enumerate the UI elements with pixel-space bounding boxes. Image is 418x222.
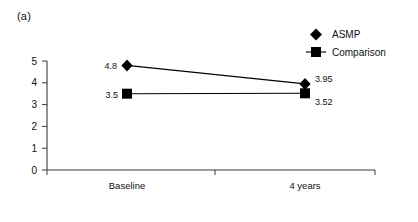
legend-label-comparison: Comparison [332, 47, 386, 58]
data-label-comparison-baseline: 3.5 [105, 90, 118, 100]
series-line-asmp [127, 65, 305, 84]
diamond-marker-icon [310, 29, 322, 41]
chart-figure: (a) 5 4 3 2 1 0 Baseline 4 years [0, 0, 418, 222]
square-marker-icon [122, 89, 132, 99]
legend-label-asmp: ASMP [332, 29, 361, 40]
legend-item-asmp[interactable]: ASMP [310, 29, 361, 41]
data-label-asmp-baseline: 4.8 [104, 61, 117, 71]
x-category-label-baseline: Baseline [109, 180, 145, 191]
y-tick-label-1: 1 [31, 143, 37, 154]
legend-item-comparison[interactable]: Comparison [306, 47, 386, 58]
y-tick-label-2: 2 [31, 121, 37, 132]
data-label-asmp-4-years: 3.95 [315, 74, 333, 84]
y-tick-label-5: 5 [31, 56, 37, 67]
chart-legend: ASMP Comparison [306, 29, 386, 59]
x-axis-ticks [47, 170, 375, 175]
data-label-comparison-4-years: 3.52 [315, 97, 333, 107]
y-tick-label-0: 0 [31, 165, 37, 176]
y-axis-ticks [42, 61, 47, 170]
x-category-label-4-years: 4 years [289, 180, 320, 191]
diamond-marker-icon [121, 59, 132, 71]
line-chart-canvas: 5 4 3 2 1 0 Baseline 4 years 4.8 3.95 3.… [0, 0, 418, 222]
diamond-marker-icon [299, 78, 310, 90]
y-tick-label-3: 3 [31, 99, 37, 110]
square-marker-icon [311, 47, 321, 57]
y-tick-label-4: 4 [31, 77, 37, 88]
square-marker-icon [300, 88, 310, 98]
